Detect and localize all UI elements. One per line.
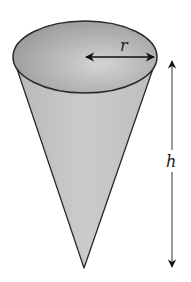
height-label: h — [166, 152, 176, 171]
cone-diagram: r h — [0, 0, 191, 282]
radius-label: r — [120, 36, 129, 55]
